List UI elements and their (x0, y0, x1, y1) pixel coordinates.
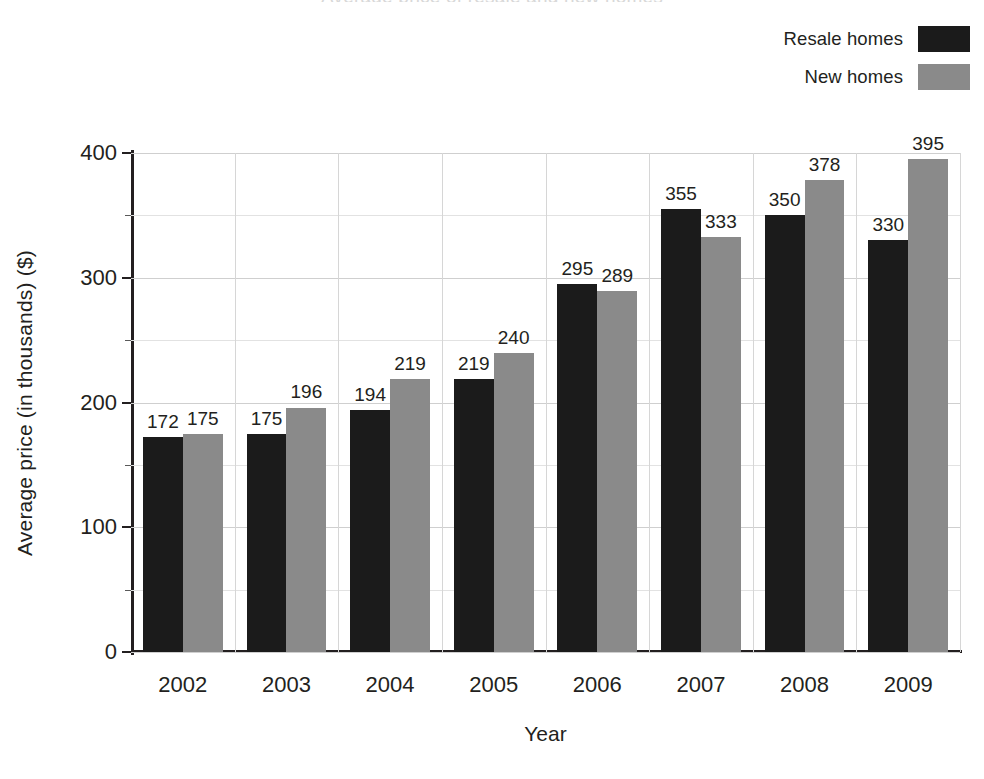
bar-new-homes-2003 (286, 408, 326, 653)
y-axis-tick (122, 526, 131, 528)
group-separator-gridline (338, 153, 339, 652)
y-axis-tick-label: 100 (80, 514, 117, 540)
bar-resale-homes-2007 (661, 209, 701, 652)
bar-new-homes-2007 (701, 237, 741, 652)
group-separator-gridline (442, 153, 443, 652)
x-axis-tick-label-2009: 2009 (884, 672, 933, 698)
legend-item-resale-homes: Resale homes (784, 26, 970, 52)
legend-label-new-homes: New homes (804, 66, 903, 88)
bar-value-label: 172 (147, 411, 179, 433)
y-axis-tick-label: 0 (105, 639, 117, 665)
bar-resale-homes-2009 (868, 240, 908, 652)
group-separator-gridline (235, 153, 236, 652)
bar-resale-homes-2002 (143, 437, 183, 652)
bar-value-label: 240 (498, 327, 530, 349)
y-axis-tick (122, 152, 131, 154)
bar-value-label: 395 (912, 133, 944, 155)
bar-new-homes-2009 (908, 159, 948, 652)
bar-value-label: 295 (562, 258, 594, 280)
y-axis-title: Average price (in thousands) ($) (10, 153, 40, 652)
x-axis-tick-label-2005: 2005 (469, 672, 518, 698)
bar-value-label: 196 (291, 381, 323, 403)
bar-value-label: 350 (769, 189, 801, 211)
bar-new-homes-2002 (183, 434, 223, 652)
y-axis-title-text: Average price (in thousands) ($) (13, 250, 37, 556)
legend-swatch-resale-homes (918, 26, 970, 52)
chart-title-clipped: Average price of resale and new homes (0, 0, 984, 2)
x-axis-tick-label-2007: 2007 (676, 672, 725, 698)
bar-value-label: 333 (705, 211, 737, 233)
legend-swatch-new-homes (918, 64, 970, 90)
x-axis-tick-label-2008: 2008 (780, 672, 829, 698)
y-axis-tick-label: 300 (80, 265, 117, 291)
group-separator-gridline (546, 153, 547, 652)
group-separator-gridline (753, 153, 754, 652)
x-axis-tick-label-2004: 2004 (366, 672, 415, 698)
plot-area: 0100200300400172175175196194219219240295… (131, 153, 960, 652)
bar-new-homes-2008 (805, 180, 845, 652)
bar-value-label: 330 (872, 214, 904, 236)
bar-resale-homes-2003 (247, 434, 287, 652)
group-separator-gridline (856, 153, 857, 652)
bar-resale-homes-2005 (454, 379, 494, 652)
y-axis-tick (122, 277, 131, 279)
y-axis-tick-minor (125, 215, 131, 216)
bar-value-label: 355 (665, 183, 697, 205)
y-axis-tick-label: 200 (80, 390, 117, 416)
bar-value-label: 219 (458, 353, 490, 375)
legend-label-resale-homes: Resale homes (784, 28, 903, 50)
bar-value-label: 194 (354, 384, 386, 406)
bar-new-homes-2004 (390, 379, 430, 652)
y-axis-tick-minor (125, 465, 131, 466)
legend-item-new-homes: New homes (804, 64, 970, 90)
bar-new-homes-2006 (597, 291, 637, 652)
y-axis-tick-label: 400 (80, 140, 117, 166)
bar-new-homes-2005 (494, 353, 534, 652)
bar-resale-homes-2004 (350, 410, 390, 652)
bar-resale-homes-2006 (557, 284, 597, 652)
x-axis-tick-label-2002: 2002 (158, 672, 207, 698)
bar-value-label: 175 (187, 408, 219, 430)
chart-legend: Resale homes New homes (784, 26, 970, 90)
bar-value-label: 175 (251, 408, 283, 430)
x-axis-tick-label-2006: 2006 (573, 672, 622, 698)
group-separator-gridline (649, 153, 650, 652)
x-axis-title: Year (131, 722, 960, 746)
bar-value-label: 378 (809, 154, 841, 176)
x-axis-tick-label-2003: 2003 (262, 672, 311, 698)
y-axis-tick (122, 402, 131, 404)
bar-chart-figure: Average price of resale and new homes Re… (0, 0, 984, 779)
gridline-major (131, 652, 960, 653)
y-axis-tick (122, 651, 131, 653)
bar-value-label: 289 (601, 265, 633, 287)
group-separator-gridline (960, 153, 961, 652)
bar-value-label: 219 (394, 353, 426, 375)
y-axis-tick-minor (125, 340, 131, 341)
bar-resale-homes-2008 (765, 215, 805, 652)
y-axis-tick-minor (125, 590, 131, 591)
